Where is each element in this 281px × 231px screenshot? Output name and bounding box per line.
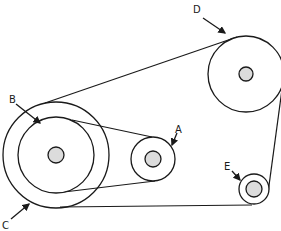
pulley-b-hub bbox=[48, 147, 64, 163]
label-e: E bbox=[224, 161, 230, 172]
pulley-d-hub bbox=[239, 67, 253, 81]
belt-bottom-c-to-e bbox=[60, 205, 252, 207]
pulley-diagram: B C A D E bbox=[0, 0, 281, 231]
arrow-c bbox=[11, 204, 29, 219]
arrow-e bbox=[232, 171, 240, 180]
pulley-a-hub bbox=[145, 151, 161, 167]
label-d: D bbox=[193, 4, 201, 15]
label-a: A bbox=[175, 124, 182, 135]
label-b: B bbox=[9, 94, 16, 105]
arrow-d bbox=[203, 18, 225, 33]
arrow-b bbox=[16, 104, 40, 123]
pulley-e-hub bbox=[246, 181, 262, 197]
label-c: C bbox=[2, 220, 9, 231]
